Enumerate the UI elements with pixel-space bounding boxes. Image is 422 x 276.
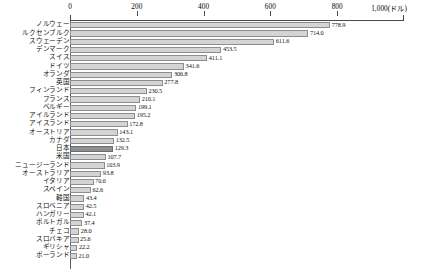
bar [70, 47, 221, 53]
bar-row: ポーランド21.0 [0, 252, 422, 260]
bar [70, 179, 94, 185]
bar [70, 22, 330, 28]
bar-rows: ノルウェー778.9ルクセンブルク714.0スウェーデン611.6デンマーク45… [0, 21, 422, 260]
bar [70, 171, 101, 177]
x-tick-label: 600 [265, 3, 276, 11]
bar [70, 204, 84, 210]
plot-area: ノルウェー778.9ルクセンブルク714.0スウェーデン611.6デンマーク45… [0, 21, 422, 269]
bar [70, 253, 77, 259]
bar [70, 237, 79, 243]
x-tick-label: 800 [332, 3, 343, 11]
bar-chart: 02004006008001,000(ドル) ノルウェー778.9ルクセンブルク… [0, 0, 422, 276]
bar [70, 63, 184, 69]
bar [70, 88, 147, 94]
bar [70, 96, 140, 102]
category-label: ポーランド [36, 251, 70, 260]
bar [70, 154, 106, 160]
bar [70, 138, 114, 144]
bar-value-label: 277.8 [164, 78, 178, 87]
bar [70, 245, 77, 251]
x-axis: 02004006008001,000(ドル) [0, 0, 422, 22]
bar [70, 212, 84, 218]
bar [70, 220, 82, 226]
bar-value-label: 341.6 [186, 62, 200, 71]
bar-value-label: 453.5 [223, 45, 237, 54]
bar-value-label: 714.0 [310, 29, 324, 38]
bar [70, 129, 118, 135]
bar [70, 146, 113, 152]
bar-value-label: 21.0 [79, 252, 90, 261]
x-tick-label: 200 [131, 3, 142, 11]
bar [70, 113, 135, 119]
bar [70, 55, 207, 61]
bar [70, 187, 91, 193]
bar-value-label: 611.6 [276, 37, 289, 46]
x-tick-label: 0 [68, 3, 72, 11]
bar [70, 80, 163, 86]
bar [70, 121, 128, 127]
bar [70, 195, 84, 201]
bar-value-label: 411.1 [209, 54, 222, 63]
bar-value-label: 778.9 [332, 21, 346, 30]
bar [70, 228, 79, 234]
bar [70, 30, 308, 36]
bar [70, 39, 274, 45]
x-tick-label: 1,000(ドル) [371, 3, 407, 13]
x-tick-label: 400 [198, 3, 209, 11]
bar [70, 162, 105, 168]
bar [70, 105, 136, 111]
bar [70, 72, 172, 78]
